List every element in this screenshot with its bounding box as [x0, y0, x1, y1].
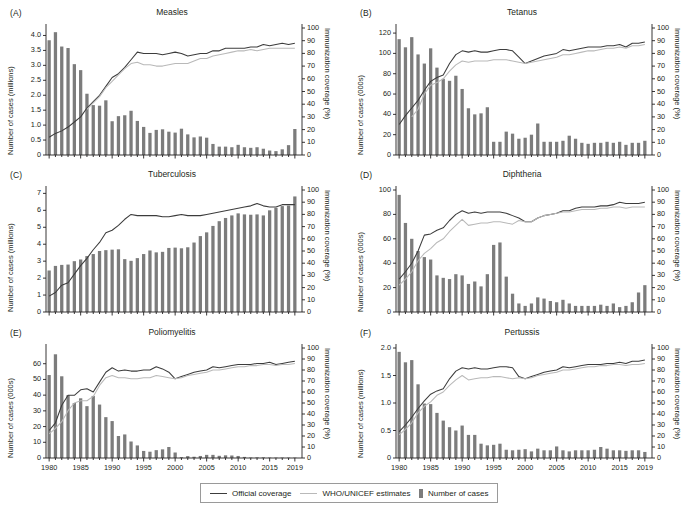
y-tick-left-6-4: 2.0 [362, 343, 391, 352]
y-tick-left-2-3: 60 [362, 89, 391, 98]
bar [561, 300, 564, 312]
bar [186, 456, 189, 458]
bar [593, 306, 596, 312]
bar [448, 81, 451, 155]
y-tick-right-4-10: 100 [657, 185, 679, 194]
y-tick-right-5-9: 90 [307, 354, 329, 363]
y-tick-right-2-5: 50 [657, 87, 679, 96]
bar-series-6 [398, 352, 647, 458]
bar [524, 306, 527, 312]
y-tick-left-5-0: 0 [12, 453, 41, 462]
y-tick-right-5-6: 60 [307, 387, 329, 396]
panel-letter-3: (C) [10, 170, 22, 180]
bar [605, 306, 608, 312]
bar [117, 116, 120, 155]
bar [643, 285, 646, 312]
bar [249, 148, 252, 155]
bar [186, 247, 189, 312]
bar [211, 144, 214, 155]
bar [142, 127, 145, 155]
bar [536, 124, 539, 156]
bar [155, 450, 158, 458]
y-tick-right-4-7: 70 [657, 222, 679, 231]
line-series-official-coverage-4 [399, 202, 645, 279]
bar [180, 248, 183, 312]
bar [580, 143, 583, 155]
bar [85, 256, 88, 312]
bar [416, 251, 419, 312]
bar [442, 421, 445, 458]
bar [505, 450, 508, 458]
bar [111, 250, 114, 312]
y-tick-left-6-0: 0 [362, 453, 391, 462]
bar [54, 266, 57, 312]
bar [161, 449, 164, 458]
x-tick-label-6-8: 2019 [629, 463, 661, 472]
panel-title-3: Tuberculosis [46, 169, 298, 179]
y-tick-right-2-9: 90 [657, 36, 679, 45]
y-tick-right-5-2: 20 [307, 431, 329, 440]
bar [574, 306, 577, 312]
bar [161, 129, 164, 155]
line-series-who-unicef-estimates-1 [87, 48, 295, 109]
x-tick-label-5-1: 1985 [65, 463, 97, 472]
bar [224, 455, 227, 458]
y-tick-right-2-3: 30 [657, 112, 679, 121]
bar [461, 426, 464, 458]
y-tick-right-3-1: 10 [307, 295, 329, 304]
line-series-official-coverage-6 [399, 360, 645, 432]
y-tick-left-1-7: 3.5 [12, 45, 41, 54]
y-tick-right-6-4: 40 [657, 409, 679, 418]
bar [174, 453, 177, 459]
bar [498, 242, 501, 312]
bar [542, 450, 545, 458]
y-tick-right-6-6: 60 [657, 387, 679, 396]
bar [237, 456, 240, 458]
bar [599, 305, 602, 312]
bar [587, 306, 590, 312]
y-tick-left-1-0: 0 [12, 150, 41, 159]
bar [461, 89, 464, 155]
bar [398, 352, 401, 458]
y-tick-left-5-6: 60 [12, 359, 41, 368]
y-tick-left-2-1: 20 [362, 130, 391, 139]
bar [454, 431, 457, 459]
bar [92, 396, 95, 458]
y-tick-right-4-0: 0 [657, 307, 679, 316]
bar [180, 457, 183, 458]
y-tick-left-2-5: 100 [362, 48, 391, 57]
bar [473, 282, 476, 313]
bar [192, 457, 195, 458]
bar [79, 398, 82, 458]
bar [423, 64, 426, 155]
bar [148, 133, 151, 155]
line-swatch-icon [210, 493, 227, 494]
bar [593, 143, 596, 155]
bar [85, 94, 88, 155]
panel-letter-5: (E) [10, 328, 22, 338]
y-tick-left-5-1: 10 [12, 437, 41, 446]
bar [274, 151, 277, 155]
bar [268, 210, 271, 312]
bar [467, 435, 470, 458]
bar [48, 270, 51, 312]
bar [66, 48, 69, 155]
y-tick-right-5-5: 50 [307, 398, 329, 407]
y-tick-right-3-4: 40 [307, 258, 329, 267]
bar-series-2 [398, 37, 647, 155]
bar [461, 275, 464, 312]
y-tick-right-3-5: 50 [307, 246, 329, 255]
y-tick-right-4-3: 30 [657, 270, 679, 279]
bar [230, 147, 233, 155]
bar [136, 445, 139, 458]
y-tick-left-1-8: 4.0 [12, 30, 41, 39]
bar [479, 113, 482, 155]
bar [398, 39, 401, 155]
bar [268, 151, 271, 155]
bar [505, 277, 508, 312]
legend-item-official-coverage: Official coverage [210, 489, 291, 498]
bar [79, 259, 82, 312]
plot-area-2 [0, 0, 693, 508]
bar [199, 236, 202, 312]
y-tick-right-2-4: 40 [657, 99, 679, 108]
